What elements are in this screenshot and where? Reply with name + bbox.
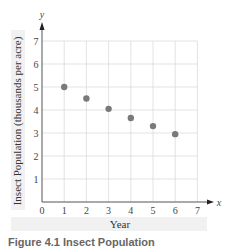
data-point (83, 95, 89, 101)
data-point (61, 84, 67, 90)
data-points (61, 84, 178, 138)
axes (40, 22, 215, 205)
data-point (150, 123, 156, 129)
y-tick-label: 6 (34, 59, 39, 70)
x-axis-symbol: x (216, 197, 222, 208)
y-tick-label: 7 (34, 36, 39, 47)
figure-caption: Figure 4.1 Insect Population (8, 236, 155, 248)
y-tick-label: 1 (34, 174, 39, 185)
x-tick-label: 4 (128, 205, 133, 216)
data-point (105, 106, 111, 112)
x-tick-label: 5 (151, 205, 156, 216)
x-tick-label: 6 (173, 205, 178, 216)
y-tick-label: 3 (34, 128, 39, 139)
x-tick-label: 3 (106, 205, 111, 216)
data-point (172, 131, 178, 137)
y-tick-label: 2 (34, 151, 39, 162)
y-axis-label: Insect Population (thousands per acre) (11, 36, 24, 205)
x-axis-arrow-icon (207, 200, 214, 205)
y-tick-label: 5 (34, 82, 39, 93)
x-tick-label: 1 (62, 205, 67, 216)
x-axis-label: Year (110, 218, 131, 230)
y-axis-arrow-icon (40, 22, 45, 30)
data-point (128, 115, 134, 121)
y-axis-symbol: y (39, 9, 45, 20)
grid-lines (42, 41, 197, 202)
x-tick-label: 7 (195, 205, 200, 216)
x-tick-label: 0 (40, 205, 45, 216)
x-tick-label: 2 (84, 205, 89, 216)
y-tick-label: 4 (34, 105, 39, 116)
